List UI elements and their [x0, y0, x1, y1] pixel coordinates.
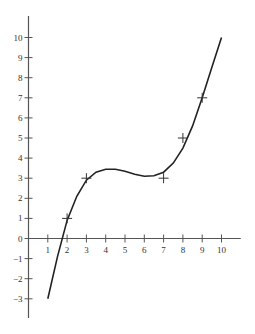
x-tick-label: 5	[123, 245, 128, 255]
y-tick-label: 6	[18, 113, 23, 123]
y-tick-label: 8	[18, 73, 23, 83]
x-tick-label: 8	[181, 245, 186, 255]
y-tick-label: 3	[18, 173, 23, 183]
plus-marker-icon	[81, 173, 91, 183]
y-tick-label: 0	[18, 234, 23, 244]
y-tick-label: 7	[18, 93, 23, 103]
axes	[29, 16, 241, 318]
y-tick-label: −1	[13, 254, 23, 264]
data-point-markers	[62, 93, 207, 224]
x-tick-label: 10	[217, 245, 227, 255]
x-tick-label: 7	[161, 245, 166, 255]
fitted-curve	[48, 38, 222, 299]
y-tick-label: −3	[13, 294, 23, 304]
y-tick-label: 4	[18, 153, 23, 163]
x-tick-label: 6	[142, 245, 147, 255]
plus-marker-icon	[197, 93, 207, 103]
y-tick-label: −2	[13, 274, 23, 284]
cubic-fit-chart: 12345678910 −3−2−1012345678910	[0, 0, 255, 334]
y-tick-label: 2	[18, 193, 23, 203]
y-tick-label: 5	[18, 133, 23, 143]
y-tick-label: 9	[18, 53, 23, 63]
x-tick-label: 3	[84, 245, 89, 255]
x-tick-label: 1	[46, 245, 51, 255]
x-tick-label: 4	[103, 245, 108, 255]
plus-marker-icon	[159, 173, 169, 183]
plus-marker-icon	[62, 213, 72, 223]
y-axis-ticks: −3−2−1012345678910	[13, 33, 33, 304]
y-tick-label: 1	[18, 213, 23, 223]
y-tick-label: 10	[14, 33, 24, 43]
x-axis-ticks: 12345678910	[46, 235, 227, 255]
x-tick-label: 2	[65, 245, 70, 255]
x-tick-label: 9	[200, 245, 205, 255]
